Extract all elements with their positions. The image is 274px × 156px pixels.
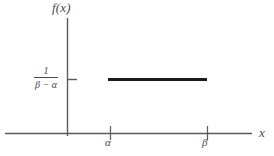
y-axis-tick-label-density-height: 1 β − α [28,66,64,90]
uniform-distribution-figure: f(x) x 1 β − α α β [0,0,274,156]
fraction: 1 β − α [34,66,58,90]
x-axis-label: x [259,126,265,139]
x-axis-tick-label-beta: β [202,137,207,148]
fraction-numerator: 1 [34,66,58,76]
x-axis-tick-label-alpha: α [105,137,111,148]
y-axis-label: f(x) [52,1,71,14]
fraction-denominator: β − α [34,78,58,90]
